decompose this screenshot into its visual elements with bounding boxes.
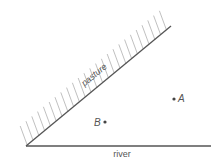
hatch-mark [61, 92, 68, 111]
point-b-dot [103, 120, 106, 123]
hatch-mark [38, 112, 45, 131]
hatch-mark [67, 88, 74, 107]
hatch-mark [113, 49, 120, 68]
point-a-dot [172, 97, 175, 100]
diagram-canvas: pasture river A B [0, 0, 221, 165]
hatch-mark [148, 20, 155, 39]
hatch-mark [142, 25, 149, 44]
hatch-mark [32, 116, 39, 135]
hatch-mark [107, 54, 114, 73]
pasture-boundary-line [26, 26, 171, 146]
hatch-mark [136, 30, 143, 49]
pasture-label: pasture [79, 61, 109, 88]
hatch-mark [72, 83, 79, 102]
hatch-mark [125, 40, 132, 59]
hatch-mark [119, 44, 126, 63]
hatch-mark [154, 16, 161, 35]
hatch-mark [43, 107, 50, 126]
hatch-mark [130, 35, 137, 54]
hatch-mark [49, 102, 56, 121]
hatch-mark [20, 126, 27, 145]
hatch-mark [26, 121, 33, 140]
river-label: river [113, 149, 131, 159]
point-a-label: A [177, 93, 185, 104]
hatch-mark [55, 97, 62, 116]
hatch-mark [159, 11, 166, 30]
point-b-label: B [94, 117, 101, 128]
